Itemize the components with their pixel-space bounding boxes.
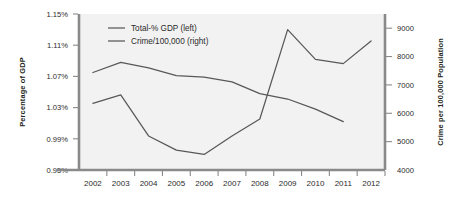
- x-tick-label: 2008: [251, 179, 269, 188]
- x-tick-label: 2006: [195, 179, 213, 188]
- plot-background: [79, 14, 385, 170]
- x-tick-label: 2012: [362, 179, 380, 188]
- x-axis-ticks: [107, 171, 385, 176]
- left-tick-label: 1.11%: [47, 41, 68, 50]
- dual-axis-line-chart: 0.95%0.99%1.03%1.07%1.11%1.15% 400050006…: [0, 0, 467, 205]
- right-tick-label: 5000: [397, 137, 414, 146]
- x-tick-label: 2011: [335, 179, 353, 188]
- right-tick-label: 4000: [397, 166, 414, 175]
- right-axis-tick-labels: 400050006000700080009000: [397, 24, 414, 175]
- x-tick-label: 2004: [140, 179, 158, 188]
- right-tick-label: 7000: [397, 81, 414, 90]
- left-tick-label: 1.15%: [46, 10, 68, 19]
- x-tick-label: 2007: [223, 179, 241, 188]
- left-axis-tick-labels: 0.95%0.99%1.03%1.07%1.11%1.15%: [46, 10, 68, 175]
- chart-container: 0.95%0.99%1.03%1.07%1.11%1.15% 400050006…: [0, 0, 467, 205]
- right-tick-label: 8000: [397, 52, 414, 61]
- left-axis-title: Percentage of GDP: [18, 57, 27, 127]
- x-axis-tick-labels: 2002200320042005200620072008200920102011…: [84, 179, 381, 188]
- left-tick-label: 0.99%: [46, 135, 68, 144]
- right-tick-label: 6000: [397, 109, 414, 118]
- right-axis-ticks: [386, 28, 392, 141]
- left-tick-label: 1.07%: [46, 72, 68, 81]
- left-axis-ticks: [73, 14, 78, 139]
- right-tick-label: 9000: [397, 24, 414, 33]
- x-tick-label: 2005: [167, 179, 185, 188]
- left-tick-label: 1.03%: [46, 103, 68, 112]
- x-tick-label: 2009: [279, 179, 297, 188]
- legend-label: Crime/100,000 (right): [131, 37, 209, 46]
- right-axis-title: Crime per 100,000 Population: [436, 38, 445, 146]
- legend-label: Total-% GDP (left): [131, 24, 197, 33]
- x-tick-label: 2003: [112, 179, 130, 188]
- x-tick-label: 2002: [84, 179, 102, 188]
- x-tick-label: 2010: [307, 179, 325, 188]
